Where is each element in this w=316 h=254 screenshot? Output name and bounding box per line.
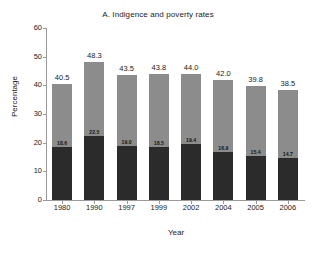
bar-total-label: 42.0 — [206, 70, 240, 78]
bar-total-label: 43.8 — [142, 64, 176, 72]
bar-segment-indigence[interactable] — [52, 147, 72, 200]
bar-indigence-label: 19.4 — [181, 137, 201, 143]
bar-segment-indigence[interactable] — [213, 152, 233, 200]
bar-segment-poverty[interactable] — [149, 74, 169, 147]
bar-group[interactable]: 43.519.0 — [117, 28, 137, 200]
x-axis-label: Year — [46, 228, 306, 237]
bar-group[interactable]: 38.514.7 — [278, 28, 298, 200]
bar-group[interactable]: 44.019.4 — [181, 28, 201, 200]
x-tick-label: 2006 — [268, 204, 308, 212]
bar-segment-indigence[interactable] — [181, 144, 201, 200]
y-tick-label: 40 — [24, 81, 42, 89]
bar-segment-poverty[interactable] — [181, 74, 201, 145]
bar-indigence-label: 18.6 — [52, 140, 72, 146]
y-tick-mark — [43, 28, 46, 29]
x-tick-mark — [159, 201, 160, 204]
bar-segment-indigence[interactable] — [246, 156, 266, 200]
bar-segment-poverty[interactable] — [84, 62, 104, 136]
bar-segment-poverty[interactable] — [117, 75, 137, 145]
y-tick-label: 30 — [24, 110, 42, 118]
x-tick-mark — [62, 201, 63, 204]
bar-total-label: 39.8 — [239, 76, 273, 84]
x-tick-mark — [191, 201, 192, 204]
bar-total-label: 48.3 — [77, 52, 111, 60]
bar-indigence-label: 18.5 — [149, 140, 169, 146]
y-tick-label: 60 — [24, 24, 42, 32]
bar-segment-indigence[interactable] — [117, 146, 137, 200]
y-tick-label: 20 — [24, 139, 42, 147]
x-axis-line — [46, 200, 305, 201]
y-tick-label: 10 — [24, 167, 42, 175]
bar-group[interactable]: 43.818.5 — [149, 28, 169, 200]
y-tick-mark — [43, 200, 46, 201]
bar-segment-poverty[interactable] — [246, 86, 266, 156]
bar-segment-poverty[interactable] — [52, 84, 72, 147]
bar-indigence-label: 22.5 — [84, 129, 104, 135]
y-tick-mark — [43, 143, 46, 144]
bar-group[interactable]: 40.518.6 — [52, 28, 72, 200]
bar-total-label: 43.5 — [110, 65, 144, 73]
y-axis-label: Percentage — [10, 57, 19, 137]
bar-segment-poverty[interactable] — [278, 90, 298, 158]
x-tick-mark — [94, 201, 95, 204]
x-tick-mark — [256, 201, 257, 204]
y-tick-label: 50 — [24, 53, 42, 61]
bar-group[interactable]: 39.815.4 — [246, 28, 266, 200]
y-tick-mark — [43, 57, 46, 58]
x-tick-mark — [223, 201, 224, 204]
y-tick-mark — [43, 114, 46, 115]
y-tick-label: 0 — [24, 196, 42, 204]
bar-segment-indigence[interactable] — [84, 136, 104, 201]
bar-indigence-label: 15.4 — [246, 149, 266, 155]
bar-group[interactable]: 42.016.9 — [213, 28, 233, 200]
bar-total-label: 40.5 — [45, 74, 79, 82]
bar-indigence-label: 14.7 — [278, 151, 298, 157]
bar-indigence-label: 16.9 — [213, 145, 233, 151]
chart-title: A. Indigence and poverty rates — [0, 10, 316, 19]
bar-segment-poverty[interactable] — [213, 80, 233, 152]
bar-group[interactable]: 48.322.5 — [84, 28, 104, 200]
chart-figure: A. Indigence and poverty rates Percentag… — [0, 0, 316, 254]
y-tick-mark — [43, 85, 46, 86]
y-tick-mark — [43, 171, 46, 172]
bar-segment-indigence[interactable] — [278, 158, 298, 200]
bar-indigence-label: 19.0 — [117, 139, 137, 145]
x-tick-mark — [127, 201, 128, 204]
x-tick-mark — [288, 201, 289, 204]
bar-total-label: 44.0 — [174, 64, 208, 72]
plot-area: 0102030405060 40.518.648.322.543.519.043… — [46, 28, 304, 200]
bar-segment-indigence[interactable] — [149, 147, 169, 200]
bar-total-label: 38.5 — [271, 80, 305, 88]
